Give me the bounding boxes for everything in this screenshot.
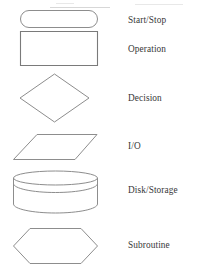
shape-cell-io — [0, 130, 115, 164]
terminator-shape — [0, 8, 115, 32]
subroutine-shape — [0, 224, 115, 270]
legend-row-disk-storage: Disk/Storage — [0, 168, 198, 216]
legend-label-subroutine: Subroutine — [128, 241, 170, 250]
legend-row-subroutine: Subroutine — [0, 224, 198, 270]
scan-artifact-speck-left — [56, 3, 74, 4]
input-output-shape — [0, 130, 115, 164]
scan-artifact-speck-right — [135, 4, 183, 5]
process-shape — [0, 30, 115, 68]
legend-row-io: I/O — [0, 130, 198, 164]
legend-label-io: I/O — [128, 142, 141, 151]
shape-cell-subroutine — [0, 224, 115, 270]
shape-cell-disk-storage — [0, 168, 115, 216]
decision-shape — [0, 72, 115, 124]
legend-label-disk-storage: Disk/Storage — [128, 186, 178, 195]
legend-label-operation: Operation — [128, 45, 166, 54]
legend-label-start-stop: Start/Stop — [128, 16, 166, 25]
legend-row-start-stop: Start/Stop — [0, 8, 198, 32]
shape-cell-start-stop — [0, 8, 115, 32]
shape-cell-decision — [0, 72, 115, 124]
legend-row-operation: Operation — [0, 30, 198, 68]
shape-cell-operation — [0, 30, 115, 68]
legend-label-decision: Decision — [128, 94, 162, 103]
legend-row-decision: Decision — [0, 72, 198, 124]
disk-storage-shape — [0, 168, 115, 216]
flowchart-symbol-legend: Start/Stop Operation Decision I/O — [0, 0, 198, 272]
